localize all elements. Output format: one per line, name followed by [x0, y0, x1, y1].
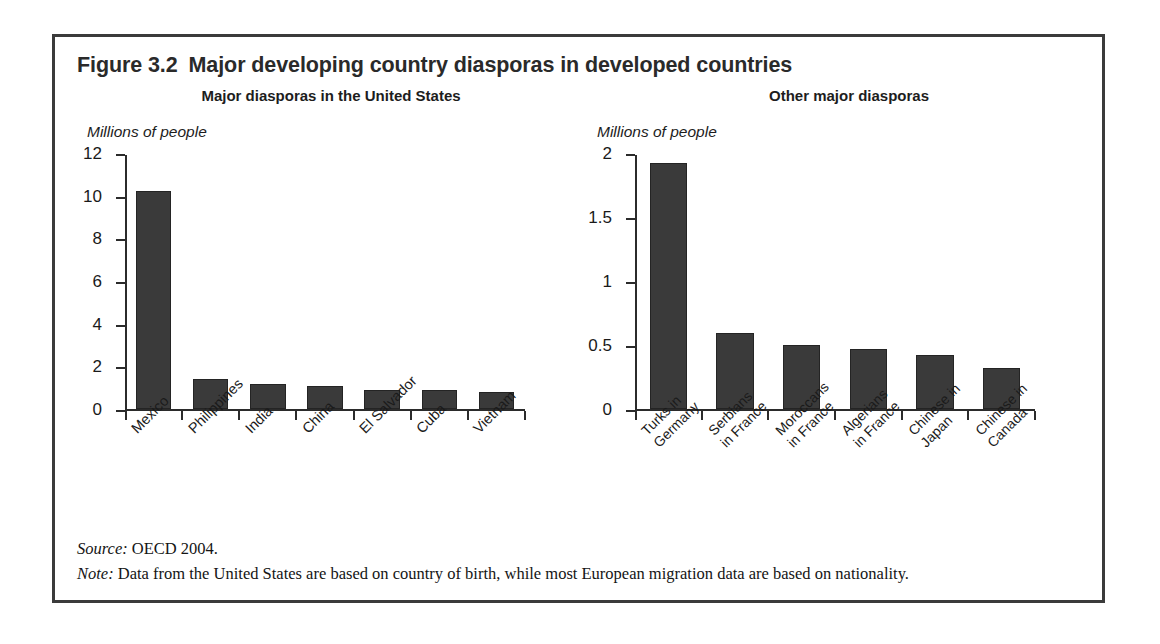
x-tick [767, 411, 769, 420]
y-tick: 8 [116, 239, 125, 241]
y-tick: 4 [116, 325, 125, 327]
figure-number: Figure 3.2 [77, 53, 178, 77]
source-label: Source: [77, 539, 128, 558]
y-tick-label: 2 [93, 357, 102, 377]
plot-area-left: 024681012MexicoPhilippinesIndiaChinaEl S… [125, 155, 525, 411]
y-axis-unit-right: Millions of people [597, 123, 717, 141]
y-tick: 1 [626, 282, 635, 284]
note-label: Note: [77, 564, 114, 583]
chart-panels: Major diasporas in the United States Mil… [55, 87, 1102, 527]
y-tick-label: 0 [93, 400, 102, 420]
y-tick: 2 [626, 154, 635, 156]
figure-page: Figure 3.2Major developing country diasp… [0, 0, 1160, 644]
x-tick [901, 411, 903, 420]
x-axis-label: Cuba [413, 400, 450, 437]
y-tick-label: 10 [83, 187, 102, 207]
y-tick-label: 2 [603, 144, 612, 164]
x-tick [524, 411, 526, 420]
y-tick-label: 8 [93, 229, 102, 249]
x-tick [1034, 411, 1036, 420]
x-tick [181, 411, 183, 420]
y-tick-label: 12 [83, 144, 102, 164]
x-axis-label: Algerians in France [838, 386, 903, 451]
bar [136, 191, 171, 409]
chart-panel-other: Other major diasporas Millions of people… [575, 87, 1095, 527]
source-line: Source: OECD 2004. [77, 539, 1077, 559]
y-tick-label: 4 [93, 315, 102, 335]
y-tick-label: 1 [603, 272, 612, 292]
x-axis-label: Serbians in France [705, 386, 770, 451]
x-tick [635, 411, 637, 420]
y-tick: 6 [116, 282, 125, 284]
x-tick [701, 411, 703, 420]
x-tick [295, 411, 297, 420]
source-text: OECD 2004. [128, 539, 218, 558]
x-tick [353, 411, 355, 420]
x-axis-label: China [299, 398, 338, 437]
y-tick-label: 0 [603, 400, 612, 420]
figure-notes: Source: OECD 2004. Note: Data from the U… [77, 539, 1077, 584]
y-tick: 0 [626, 410, 635, 412]
x-axis-label: Turks in Germany [638, 386, 702, 450]
plot-area-right: 00.511.52Turks in GermanySerbians in Fra… [635, 155, 1035, 411]
y-tick: 1.5 [626, 218, 635, 220]
note-text: Data from the United States are based on… [114, 564, 909, 583]
figure-title: Figure 3.2Major developing country diasp… [77, 53, 792, 78]
x-tick [967, 411, 969, 420]
y-tick-label: 1.5 [588, 208, 612, 228]
bar [250, 384, 285, 409]
x-tick [834, 411, 836, 420]
y-tick: 0.5 [626, 346, 635, 348]
y-axis-unit-left: Millions of people [87, 123, 207, 141]
y-tick-label: 0.5 [588, 336, 612, 356]
x-tick [125, 411, 127, 420]
x-tick [410, 411, 412, 420]
y-tick-label: 6 [93, 272, 102, 292]
y-axis-right [635, 155, 637, 411]
y-tick: 0 [116, 410, 125, 412]
bar [650, 163, 687, 409]
figure-title-text: Major developing country diasporas in de… [189, 53, 793, 77]
figure-frame: Figure 3.2Major developing country diasp… [52, 34, 1105, 603]
note-line: Note: Data from the United States are ba… [77, 564, 1077, 584]
y-tick: 12 [116, 154, 125, 156]
x-tick [467, 411, 469, 420]
panel-title-left: Major diasporas in the United States [63, 87, 591, 104]
chart-panel-united-states: Major diasporas in the United States Mil… [63, 87, 583, 527]
y-axis-left [125, 155, 127, 411]
y-tick: 10 [116, 197, 125, 199]
x-tick [238, 411, 240, 420]
panel-title-right: Other major diasporas [575, 87, 1109, 104]
y-tick: 2 [116, 367, 125, 369]
